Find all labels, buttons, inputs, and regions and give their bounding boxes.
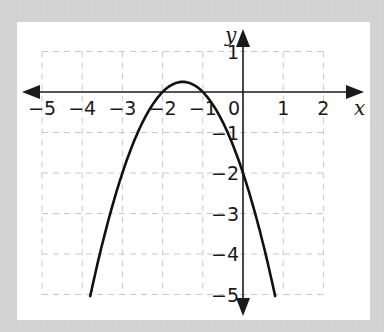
y-tick-label: −4	[211, 243, 239, 265]
tick-labels: −5−4−3−2−10121−1−2−3−4−5xy	[28, 23, 365, 306]
grid-lines	[42, 52, 323, 295]
y-tick-label: −2	[211, 162, 239, 184]
x-tick-label: 0	[228, 97, 240, 119]
x-tick-label: −3	[108, 97, 136, 119]
x-axis-label: x	[354, 96, 365, 120]
x-tick-label: 1	[277, 97, 289, 119]
x-tick-label: −4	[68, 97, 96, 119]
x-tick-label: 2	[317, 97, 329, 119]
y-tick-label: −5	[211, 284, 239, 306]
parabola-chart: −5−4−3−2−10121−1−2−3−4−5xy	[0, 0, 384, 332]
y-tick-label: −3	[211, 203, 239, 225]
x-tick-label: −1	[189, 97, 217, 119]
x-tick-label: −2	[149, 97, 177, 119]
y-axis-label: y	[224, 23, 237, 47]
axes	[22, 29, 364, 316]
x-tick-label: −5	[28, 97, 56, 119]
